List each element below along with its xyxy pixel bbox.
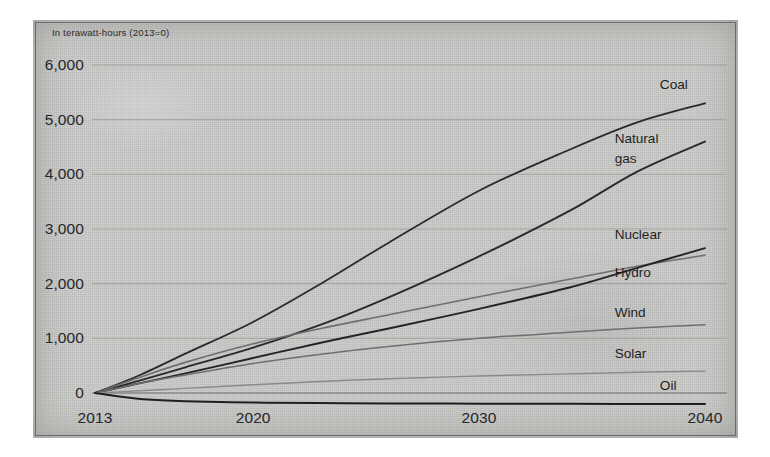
series-label-nuclear: Nuclear bbox=[615, 228, 662, 243]
y-axis-tick-label: 3,000 bbox=[22, 220, 84, 238]
series-label-oil: Oil bbox=[660, 379, 677, 394]
y-axis-tick-label: 4,000 bbox=[22, 165, 84, 183]
series-label-wind: Wind bbox=[615, 306, 646, 321]
series-label-hydro: Hydro bbox=[615, 266, 651, 281]
y-axis-tick-label: 2,000 bbox=[22, 275, 84, 293]
y-axis-tick-label: 0 bbox=[22, 384, 84, 402]
series-line-wind bbox=[95, 325, 705, 393]
x-axis-tick-label: 2020 bbox=[218, 409, 288, 427]
y-axis-tick-label: 1,000 bbox=[22, 329, 84, 347]
x-axis-tick-label: 2040 bbox=[670, 409, 740, 427]
series-line-natural-gas bbox=[95, 142, 705, 393]
series-group bbox=[95, 103, 705, 404]
series-line-oil bbox=[95, 393, 705, 404]
x-axis-tick-label: 2030 bbox=[444, 409, 514, 427]
series-label-natural: Natural bbox=[615, 132, 659, 147]
series-label-gas: gas bbox=[615, 152, 637, 167]
series-label-coal: Coal bbox=[660, 78, 688, 93]
chart-figure: In terawatt-hours (2013=0) 01,0002,0003,… bbox=[0, 0, 770, 457]
series-label-solar: Solar bbox=[615, 347, 647, 362]
series-line-coal bbox=[95, 103, 705, 393]
y-axis-tick-label: 6,000 bbox=[22, 56, 84, 74]
x-axis-tick-label: 2013 bbox=[60, 409, 130, 427]
y-axis-tick-label: 5,000 bbox=[22, 111, 84, 129]
